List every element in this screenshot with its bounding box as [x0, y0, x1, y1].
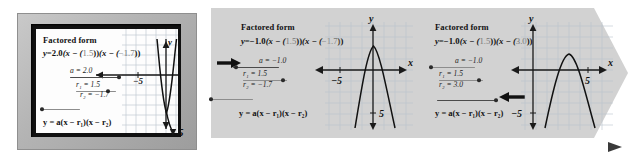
graph-1-y-axis-label: y — [168, 37, 172, 47]
panel-2-slider-a-knob[interactable] — [234, 65, 238, 69]
calculator-screen-1: −5 y Factored form y=2.0(x − (1.5))(x − … — [36, 29, 178, 133]
panel-1-slider-r2-label-holder: r₂ = −1.7 — [80, 97, 116, 105]
graph-2-y-axis-label: y — [368, 13, 374, 24]
graph-2-y-tick-label: 5 — [379, 108, 384, 119]
eq-1-r1: 1.5 — [82, 48, 93, 58]
panel-1-slider-r2[interactable] — [40, 105, 80, 113]
panel-1-slider-r2-label: r₂ = −1.7 — [80, 90, 109, 99]
graph-2-curve — [355, 46, 395, 128]
panel-1-general-form: y = a(x − r₁)(x − r₂) — [43, 117, 111, 127]
eq-2-r1: 1.5 — [285, 36, 296, 46]
panel-3-slider-a-label: a = −1.0 — [455, 56, 482, 65]
panel-2-slider-r1-knob[interactable] — [281, 78, 285, 82]
panel-3-slider-r2-label-holder: r₂ = 3.0 — [439, 87, 479, 95]
panel-2-slider-r2-label-holder: r₂ = −1.7 — [243, 87, 283, 95]
panel-1-equation: y=2.0(x − (1.5))(x − (−1.7)) — [43, 48, 140, 58]
eq-1-r2: −1.7 — [119, 48, 135, 58]
graph-3-y-tick-label: −5 — [511, 108, 522, 119]
panel-3-slider-r2-track[interactable] — [437, 100, 497, 101]
flow-arrow — [14, 138, 624, 156]
panel-2: Factored form y=−1.0(x − (1.5))(x − (−1.… — [211, 8, 416, 138]
panel-2-slider-r2-track[interactable] — [209, 99, 253, 100]
eq-3-a: −1.0 — [444, 36, 460, 46]
panel-1-slider-a-label: a = 2.0 — [70, 66, 92, 75]
panel-1-slider-a-track[interactable] — [70, 77, 120, 78]
panel-1-heading: Factored form — [43, 35, 97, 45]
eq-2-factor1-prefix: (x − ( — [266, 36, 286, 46]
panel-1-slider-r2-knob[interactable] — [40, 107, 44, 111]
figure-stage: −5 y Factored form y=2.0(x − (1.5))(x − … — [0, 0, 628, 161]
svg-text:5: 5 — [178, 126, 184, 138]
eq-1-a: 2.0 — [52, 48, 63, 58]
panel-1-slider-r1-label: r₁ = 1.5 — [76, 80, 100, 89]
process-banner: Factored form y=−1.0(x − (1.5))(x − (−1.… — [211, 8, 628, 138]
panel-2-heading: Factored form — [241, 22, 295, 32]
panel-1-slider-a-knob[interactable] — [117, 75, 121, 79]
panel-2-graph: x y −5 5 — [309, 12, 417, 136]
panel-2-slider-r2-label: r₂ = −1.7 — [243, 80, 272, 89]
eq-2-a: −1.0 — [250, 36, 266, 46]
calculator-screen-border: −5 y Factored form y=2.0(x − (1.5))(x − … — [31, 24, 181, 137]
panel-2-slider-a-label: a = −1.0 — [259, 56, 286, 65]
eq-3-r1: 1.5 — [479, 36, 490, 46]
eq-1-factor1-prefix: (x − ( — [63, 48, 83, 58]
panel-3-general-form: y = a(x − r₁)(x − r₂) — [435, 108, 503, 118]
eq-1-factor2-prefix: (x − ( — [99, 48, 119, 58]
panel-3-slider-a-knob[interactable] — [429, 65, 433, 69]
graph-3-curve — [545, 54, 595, 128]
panel-3-slider-r1-label: r₁ = 1.5 — [439, 69, 463, 78]
panel-2-general-form: y = a(x − r₁)(x − r₂) — [239, 108, 307, 118]
graph-1-curve — [157, 39, 177, 113]
graph-3-grid — [521, 22, 613, 130]
graph-3-x-axis-label: x — [607, 57, 613, 68]
panel-2-slider-r2[interactable] — [209, 95, 253, 103]
panel-3-slider-r2[interactable] — [437, 96, 497, 104]
panel-3-slider-r2-label: r₂ = 3.0 — [439, 80, 463, 89]
eq-3-factor1-prefix: (x − ( — [460, 36, 480, 46]
eq-1-factor2-suffix: )) — [135, 48, 141, 58]
graph-3-y-axis-label: y — [528, 13, 534, 24]
graph-3-x-tick-label: 5 — [585, 75, 590, 86]
panel-3: Factored form y=−1.0(x − (1.5))(x − (3.0… — [409, 8, 624, 138]
panel-3-slider-r1-knob[interactable] — [477, 78, 481, 82]
panel-3-heading: Factored form — [435, 22, 489, 32]
panel-3-graph: x y 5 −5 — [509, 12, 621, 136]
graph-2-x-tick-label: −5 — [331, 75, 342, 86]
graph-1-x-tick-label: −5 — [133, 76, 143, 86]
panel-2-slider-r1-label: r₁ = 1.5 — [243, 69, 267, 78]
panel-1-slider-r2-track[interactable] — [40, 109, 80, 110]
panel-2-slider-r2-knob[interactable] — [209, 97, 213, 101]
